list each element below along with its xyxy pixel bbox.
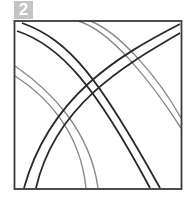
gray-curves-upper-right bbox=[78, 21, 181, 128]
tile-diagram bbox=[0, 0, 195, 206]
